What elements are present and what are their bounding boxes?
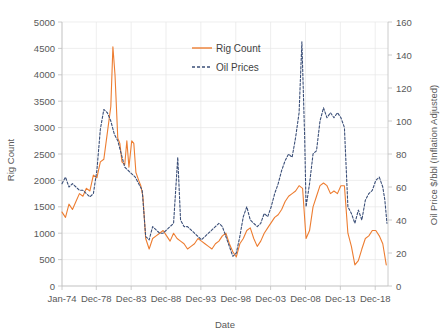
left-tick-label: 3000 — [34, 122, 55, 133]
right-tick-label: 160 — [396, 17, 412, 28]
bottom-tick-label: Jan-74 — [47, 293, 76, 304]
left-tick-label: 0 — [50, 281, 55, 292]
right-tick-label: 60 — [396, 182, 407, 193]
left-tick-label: 2000 — [34, 175, 55, 186]
left-tick-label: 1000 — [34, 228, 55, 239]
left-tick-label: 2500 — [34, 149, 55, 160]
bottom-tick-label: Dec-98 — [220, 293, 251, 304]
left-axis-tick-labels: 0500100015002000250030003500400045005000 — [34, 17, 55, 292]
bottom-tick-label: Dec-88 — [151, 293, 182, 304]
series-group — [62, 42, 387, 265]
chart-container: 0500100015002000250030003500400045005000… — [0, 0, 448, 334]
left-tick-label: 3500 — [34, 96, 55, 107]
left-tick-label: 1500 — [34, 201, 55, 212]
rig-count-oil-price-chart: 0500100015002000250030003500400045005000… — [0, 0, 448, 334]
bottom-tick-label: Dec-13 — [325, 293, 356, 304]
legend-label-oil-prices: Oil Prices — [216, 62, 259, 73]
right-tick-label: 100 — [396, 116, 412, 127]
left-tick-label: 5000 — [34, 17, 55, 28]
bottom-tick-label: Dec-03 — [255, 293, 286, 304]
chart-legend: Rig CountOil Prices — [192, 43, 261, 73]
bottom-tick-label: Dec-78 — [81, 293, 112, 304]
bottom-tick-label: Dec-08 — [290, 293, 321, 304]
bottom-tick-label: Dec-93 — [186, 293, 217, 304]
right-axis-title: Oil Price $/bbl (Inflation Adjusted) — [428, 85, 439, 225]
series-line-oil-prices — [62, 42, 387, 256]
right-axis-tick-labels: 020406080100120140160 — [396, 17, 412, 292]
left-tick-label: 500 — [39, 254, 55, 265]
bottom-tick-label: Dec-18 — [360, 293, 391, 304]
bottom-axis-tick-labels: Jan-74Dec-78Dec-83Dec-88Dec-93Dec-98Dec-… — [47, 293, 390, 304]
legend-label-rig-count: Rig Count — [216, 43, 261, 54]
right-tick-label: 40 — [396, 215, 407, 226]
left-axis-title: Rig Count — [5, 139, 16, 182]
bottom-axis-title: Date — [215, 319, 235, 330]
right-tick-label: 140 — [396, 50, 412, 61]
right-tick-label: 0 — [396, 281, 401, 292]
right-tick-label: 20 — [396, 248, 407, 259]
left-tick-label: 4000 — [34, 69, 55, 80]
right-tick-label: 80 — [396, 149, 407, 160]
bottom-tick-label: Dec-83 — [116, 293, 147, 304]
right-tick-label: 120 — [396, 83, 412, 94]
left-tick-label: 4500 — [34, 43, 55, 54]
